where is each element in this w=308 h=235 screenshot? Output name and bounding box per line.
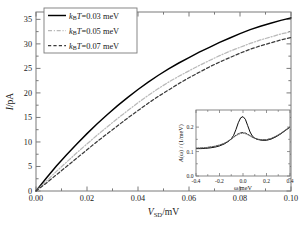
y-tick-label: 20 [24, 89, 32, 98]
inset-x-axis-title: ω/meV [234, 184, 252, 191]
y-tick-label: 5 [28, 162, 32, 171]
inset-x-tick-label: -0.2 [215, 178, 224, 184]
inset-y-tick-label: 0.1 [187, 149, 194, 155]
x-tick-label: 0.02 [80, 194, 94, 203]
x-tick-label: 0.08 [233, 194, 247, 203]
y-tick-label: 35 [24, 15, 32, 24]
legend-label-0: kBT=0.03 meV [69, 12, 119, 21]
y-tick-label: 10 [24, 138, 32, 147]
inset-x-tick-label: 0.4 [287, 178, 294, 184]
x-axis-title: VSD/mV [148, 206, 179, 218]
y-tick-label: 25 [24, 64, 32, 73]
inset-y-tick-label: 0.2 [187, 124, 194, 130]
y-axis-title: I/pA [4, 93, 15, 112]
inset-x-tick-label: 0.2 [263, 178, 270, 184]
inset-y-axis-title: A(ω) / (1/meV) [177, 124, 185, 163]
legend-label-2: kBT=0.07 meV [69, 42, 119, 51]
inset-frame [196, 110, 290, 176]
x-tick-label: 0.06 [182, 194, 196, 203]
y-tick-label: 0 [28, 187, 32, 196]
iv-characteristic-chart: 0.000.020.040.060.080.1005101520253035VS… [0, 0, 308, 235]
legend-label-1: kBT=0.05 meV [69, 27, 119, 36]
y-tick-label: 30 [24, 40, 32, 49]
legend: kBT=0.03 meVkBT=0.05 meVkBT=0.07 meV [44, 8, 137, 53]
x-tick-label: 0.04 [131, 194, 145, 203]
y-tick-label: 15 [24, 113, 32, 122]
inset-y-tick-label: 0.0 [187, 173, 194, 179]
x-tick-label: 0.10 [284, 194, 298, 203]
figure-container: 0.000.020.040.060.080.1005101520253035VS… [0, 0, 308, 235]
inset-plot: -0.4-0.20.00.20.40.00.10.2ω/meVA(ω) / (1… [177, 110, 294, 191]
